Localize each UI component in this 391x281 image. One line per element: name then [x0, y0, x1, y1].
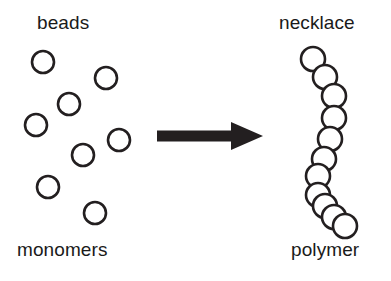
monomer-bead-6: [72, 144, 94, 166]
monomer-bead-4: [25, 114, 47, 136]
scattered-beads-group: [25, 51, 130, 224]
transformation-arrow: [157, 122, 263, 150]
polymer-chain-group: [301, 47, 357, 238]
polymer-unit-3: [322, 84, 346, 108]
monomer-bead-1: [32, 51, 54, 73]
label-beads: beads: [37, 13, 89, 32]
label-monomers: monomers: [17, 240, 108, 259]
polymer-unit-11: [333, 214, 357, 238]
monomer-bead-2: [95, 67, 117, 89]
monomer-bead-8: [84, 202, 106, 224]
monomer-bead-7: [37, 176, 59, 198]
label-necklace: necklace: [279, 13, 355, 32]
label-polymer: polymer: [291, 240, 359, 259]
polymer-analogy-figure: beads monomers necklace polymer: [0, 0, 391, 281]
monomer-bead-5: [108, 129, 130, 151]
monomer-bead-3: [58, 93, 80, 115]
arrow-shape: [157, 122, 263, 150]
